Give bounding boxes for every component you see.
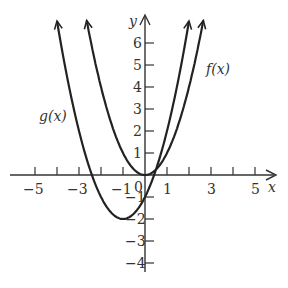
x-tick-label: 3 xyxy=(207,181,216,197)
graph-figure: x y f(x) g(x) −5−3−10135 654321−1−2−3−4 xyxy=(0,0,288,288)
y-tick-label: −3 xyxy=(125,233,146,249)
f-curve-label: f(x) xyxy=(205,61,230,77)
y-axis-label: y xyxy=(128,13,138,29)
y-tick-label: −2 xyxy=(125,211,146,227)
x-tick-label: −3 xyxy=(67,181,88,197)
x-tick-label: 5 xyxy=(251,181,260,197)
y-tick-label: 4 xyxy=(133,79,142,95)
y-tick-labels: 654321−1−2−3−4 xyxy=(125,35,146,271)
x-tick-label: 1 xyxy=(163,181,172,197)
x-axis-label: x xyxy=(268,179,276,195)
y-tick-label: 6 xyxy=(133,35,142,51)
y-tick-label: 1 xyxy=(133,145,142,161)
x-tick-label: −5 xyxy=(23,181,44,197)
y-ticks xyxy=(145,43,154,263)
g-curve-label: g(x) xyxy=(39,108,67,124)
y-tick-label: −4 xyxy=(125,255,146,271)
y-tick-label: 2 xyxy=(133,123,142,139)
coordinate-plane: x y f(x) g(x) −5−3−10135 654321−1−2−3−4 xyxy=(0,0,288,288)
y-tick-label: 5 xyxy=(133,57,142,73)
y-tick-label: 3 xyxy=(133,101,142,117)
y-tick-label: −1 xyxy=(125,189,146,205)
